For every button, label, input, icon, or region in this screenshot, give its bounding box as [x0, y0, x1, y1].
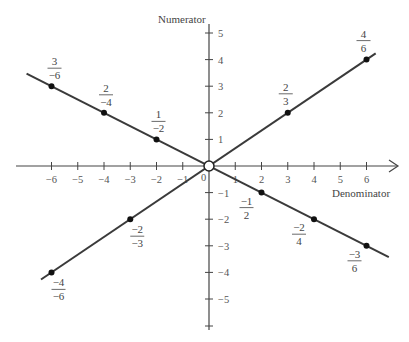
y-tick-label: 1: [218, 134, 223, 145]
fraction-label: −12: [240, 195, 254, 221]
origin-label: 0: [201, 172, 206, 183]
data-point: [49, 269, 55, 275]
y-axis-title: Numerator: [158, 13, 206, 25]
data-point: [364, 57, 370, 63]
fraction-denominator: −6: [53, 290, 65, 302]
fraction-numerator: 2: [283, 81, 289, 93]
fraction-label: −36: [348, 248, 362, 274]
y-tick-label: −2: [218, 214, 229, 225]
fraction-numerator: 2: [103, 82, 109, 94]
x-tick-label: 2: [259, 174, 264, 185]
fraction-numerator: −4: [53, 276, 65, 288]
fraction-label: 2−4: [99, 82, 113, 108]
x-tick-label: −2: [151, 174, 162, 185]
x-tick-label: −5: [72, 174, 83, 185]
data-point: [127, 216, 133, 222]
fraction-denominator: 3: [283, 95, 289, 107]
y-tick-label: 5: [218, 28, 223, 39]
fraction-label: −24: [292, 221, 306, 247]
fraction-numerator: 4: [361, 28, 367, 40]
data-point: [364, 243, 370, 249]
y-tick-label: −5: [218, 294, 229, 305]
fraction-label: 23: [279, 81, 293, 107]
fraction-denominator: −4: [100, 96, 112, 108]
x-tick-label: 6: [364, 174, 369, 185]
data-point: [101, 110, 107, 116]
y-tick-label: 4: [218, 55, 224, 66]
x-tick-label: −4: [98, 174, 110, 185]
equivalent-fractions-chart: −6−5−4−3−2−112345654321−1−2−3−4−5 3−62−4…: [0, 0, 409, 342]
x-tick-label: 5: [338, 174, 343, 185]
fraction-numerator: −1: [241, 195, 253, 207]
fraction-denominator: 6: [352, 262, 358, 274]
axes: −6−5−4−3−2−112345654321−1−2−3−4−5: [16, 24, 398, 330]
y-tick-label: 2: [218, 108, 223, 119]
fraction-denominator: 6: [361, 42, 367, 54]
fraction-numerator: 3: [52, 55, 58, 67]
x-tick-label: −3: [125, 174, 136, 185]
y-tick-label: −1: [218, 188, 229, 199]
data-point: [154, 136, 160, 142]
fraction-numerator: −2: [293, 221, 305, 233]
fraction-label: −2−3: [130, 223, 144, 249]
fraction-label: 3−6: [48, 55, 62, 81]
fraction-label: 1−2: [152, 108, 166, 134]
data-point: [49, 83, 55, 89]
y-tick-label: −4: [218, 267, 230, 278]
x-tick-label: −6: [46, 174, 57, 185]
fraction-denominator: −6: [49, 69, 61, 81]
fraction-numerator: −2: [131, 223, 143, 235]
data-point: [259, 190, 265, 196]
data-point: [311, 216, 317, 222]
fraction-numerator: 1: [156, 108, 162, 120]
y-tick-label: 3: [218, 81, 223, 92]
y-tick-label: −3: [218, 241, 229, 252]
fraction-label: 46: [357, 28, 371, 54]
fraction-label: −4−6: [52, 276, 66, 302]
x-axis-title: Denominator: [332, 187, 390, 199]
origin-open-circle-icon: [204, 161, 214, 171]
fraction-denominator: −3: [131, 237, 143, 249]
x-tick-label: 4: [311, 174, 317, 185]
fraction-numerator: −3: [349, 248, 361, 260]
x-tick-label: 3: [285, 174, 290, 185]
fraction-denominator: −2: [153, 122, 165, 134]
fraction-denominator: 4: [296, 235, 302, 247]
fraction-denominator: 2: [244, 209, 250, 221]
data-point: [285, 110, 291, 116]
